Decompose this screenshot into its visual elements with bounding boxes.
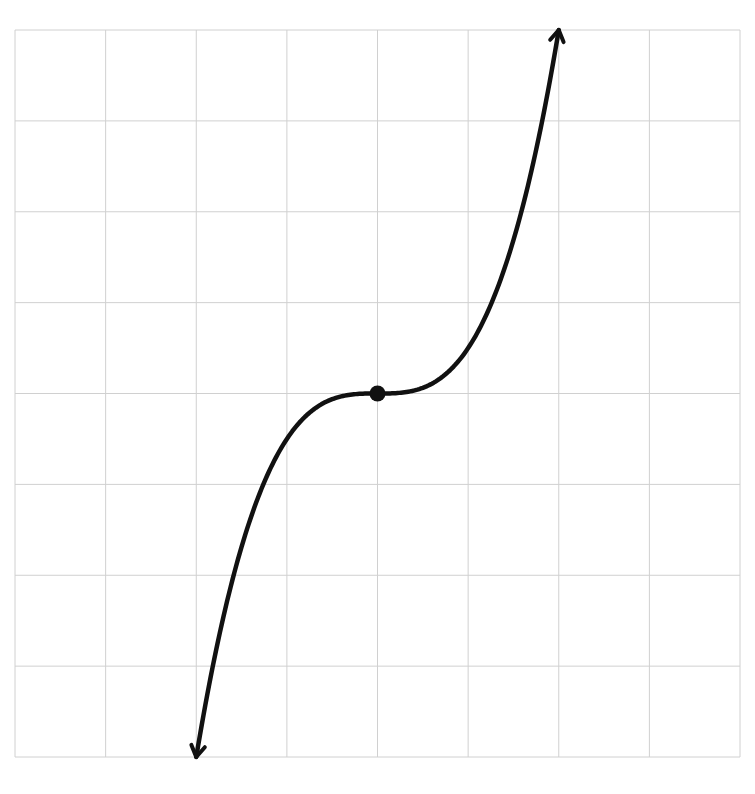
inflection-point — [370, 386, 386, 402]
cubic-function-chart — [0, 0, 755, 794]
